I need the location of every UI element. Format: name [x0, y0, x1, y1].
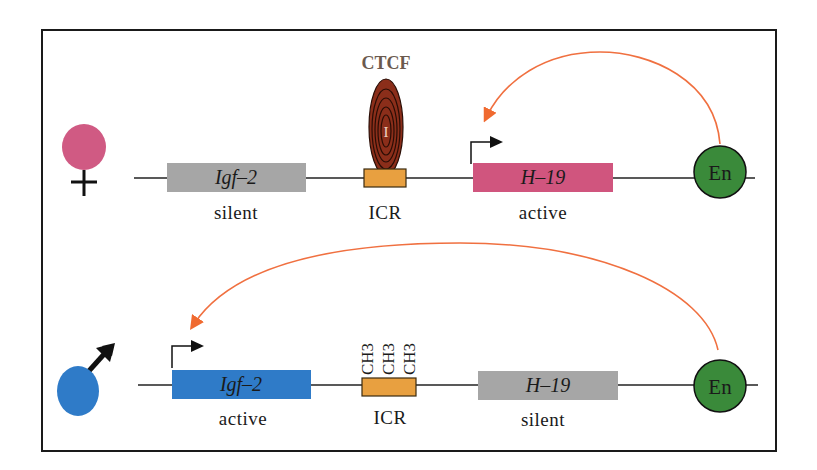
- igf2-state-paternal: active: [219, 408, 267, 429]
- icr-label-paternal: ICR: [373, 407, 406, 428]
- methyl-mark: CH3: [379, 343, 398, 375]
- genomic-imprinting-diagram: Igf–2 silent CTCF I ICR H–19 active En: [0, 0, 817, 470]
- ctcf-protein-icon: I: [369, 79, 403, 175]
- igf2-label-maternal: Igf–2: [214, 166, 257, 189]
- methyl-mark: CH3: [400, 343, 419, 375]
- h19-state-maternal: active: [519, 202, 567, 223]
- h19-label-paternal: H–19: [525, 374, 570, 396]
- h19-label-maternal: H–19: [520, 166, 565, 188]
- icr-label-maternal: ICR: [368, 202, 401, 223]
- icr-paternal: [362, 378, 416, 396]
- methyl-mark: CH3: [358, 343, 377, 375]
- enhancer-label-paternal: En: [708, 375, 732, 399]
- enhancer-maternal: En: [694, 146, 746, 198]
- h19-state-paternal: silent: [521, 409, 565, 430]
- enhancer-paternal: En: [694, 360, 746, 412]
- methylation-marks: CH3 CH3 CH3: [358, 343, 419, 375]
- ctcf-label: CTCF: [362, 53, 411, 73]
- igf2-state-maternal: silent: [214, 202, 258, 223]
- enhancer-label-maternal: En: [708, 161, 732, 185]
- icr-maternal: [364, 169, 406, 187]
- ctcf-inner-label: I: [384, 124, 389, 140]
- igf2-label-paternal: Igf–2: [219, 373, 262, 396]
